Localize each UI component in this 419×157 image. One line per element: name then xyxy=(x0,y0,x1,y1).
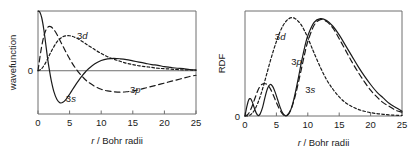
curve-3d xyxy=(245,18,402,116)
x-tick-label: 0 xyxy=(35,117,40,128)
x-tick-label: 20 xyxy=(365,119,376,130)
curve-label-3p: 3p xyxy=(130,84,141,95)
curve-3s xyxy=(38,11,196,103)
x-tick-label: 0 xyxy=(242,119,247,130)
x-tick-label: 5 xyxy=(67,117,72,128)
curve-label-3d: 3d xyxy=(275,31,286,42)
y-axis-label: wavefunction xyxy=(7,35,18,91)
curve-label-3p: 3p xyxy=(291,56,302,67)
figure-root: 051015202503d3s3pr / Bohr radiiwavefunct… xyxy=(0,0,419,157)
curve-label-3s: 3s xyxy=(305,84,315,95)
x-tick-label: 10 xyxy=(303,119,314,130)
x-tick-label: 15 xyxy=(128,117,139,128)
wavefunction-plot: 051015202503d3s3pr / Bohr radiiwavefunct… xyxy=(0,0,210,157)
curve-label-3s: 3s xyxy=(66,93,76,104)
curve-3d xyxy=(38,36,196,71)
y-tick-label: 0 xyxy=(235,111,240,122)
panel-wavefunction: 051015202503d3s3pr / Bohr radiiwavefunct… xyxy=(0,0,210,157)
rdf-plot: 051015202503d3p3sr / Bohr radiiRDF xyxy=(209,0,419,157)
x-tick-label: 25 xyxy=(397,119,408,130)
curve-3p xyxy=(38,26,196,92)
x-tick-label: 20 xyxy=(159,117,170,128)
y-tick-label: 0 xyxy=(28,65,33,76)
x-tick-label: 25 xyxy=(191,117,202,128)
curve-label-3d: 3d xyxy=(77,30,88,41)
x-tick-label: 5 xyxy=(274,119,279,130)
plot-frame xyxy=(245,11,402,116)
panel-rdf: 051015202503d3p3sr / Bohr radiiRDF xyxy=(209,0,419,157)
x-axis-label: r / Bohr radii xyxy=(298,137,350,148)
x-tick-label: 15 xyxy=(334,119,345,130)
curve-3p xyxy=(245,19,402,116)
x-axis-label: r / Bohr radii xyxy=(91,135,143,146)
x-tick-label: 10 xyxy=(96,117,107,128)
y-axis-label: RDF xyxy=(216,54,227,74)
plot-frame xyxy=(38,11,196,114)
curve-3s xyxy=(245,19,402,116)
